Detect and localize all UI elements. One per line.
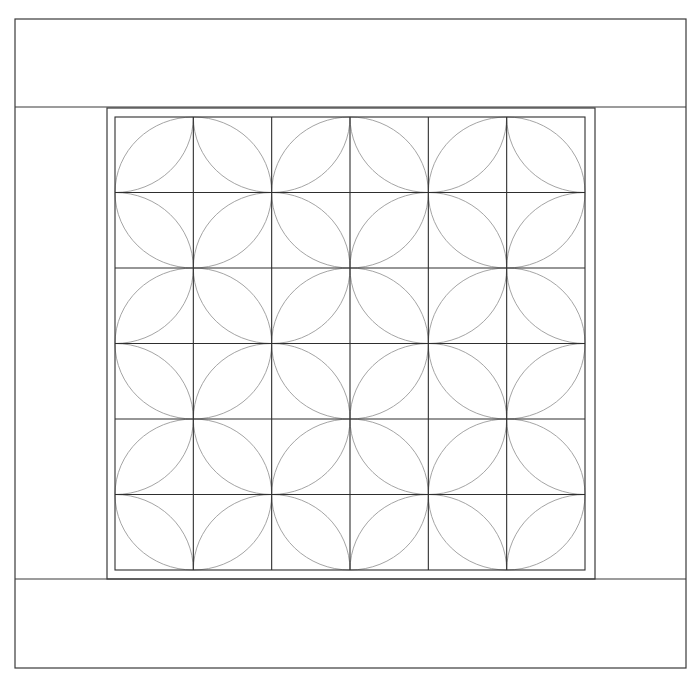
quilt-diagram: [0, 0, 697, 681]
